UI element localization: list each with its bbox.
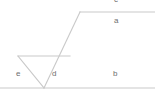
label-d: d xyxy=(52,70,56,78)
line-diagram xyxy=(0,0,155,99)
diagram-canvas: c a b d e xyxy=(0,0,155,99)
triangle-left-edge-path xyxy=(18,56,44,88)
label-e: e xyxy=(16,70,20,78)
label-c: c xyxy=(114,0,118,4)
ramp-path xyxy=(44,12,80,88)
label-a: a xyxy=(114,17,118,25)
label-b: b xyxy=(113,70,117,78)
